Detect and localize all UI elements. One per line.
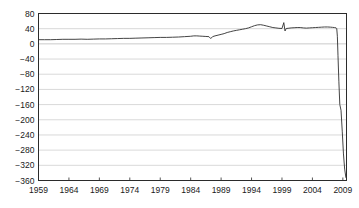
y-tick-label: −200 <box>15 115 34 125</box>
y-tick-label: 40 <box>25 24 35 34</box>
y-tick-label: −280 <box>15 145 34 155</box>
y-tick-label: 80 <box>25 9 35 19</box>
y-tick-label: −320 <box>15 160 34 170</box>
x-tick-label: 1984 <box>181 185 200 195</box>
x-tick-label: 1969 <box>90 185 109 195</box>
x-tick-label: 1994 <box>242 185 261 195</box>
x-tick-label: 1964 <box>59 185 78 195</box>
x-axis-tick-labels: 1959196419691974197919841989199419992004… <box>29 185 353 195</box>
x-tick-label: 2004 <box>303 185 322 195</box>
data-series-group <box>39 23 346 178</box>
x-tick-label: 1979 <box>151 185 170 195</box>
line-chart: 80400−40−80−120−160−200−240−280−320−360 … <box>0 0 359 208</box>
y-tick-label: −160 <box>15 100 34 110</box>
y-axis-tick-labels: 80400−40−80−120−160−200−240−280−320−360 <box>15 9 34 186</box>
chart-container: 80400−40−80−120−160−200−240−280−320−360 … <box>0 0 359 208</box>
x-tick-label: 2009 <box>333 185 352 195</box>
x-tick-label: 1989 <box>212 185 231 195</box>
x-tick-label: 1999 <box>273 185 292 195</box>
y-tick-label: −80 <box>20 69 35 79</box>
y-tick-label: 0 <box>30 39 35 49</box>
y-tick-label: −240 <box>15 130 34 140</box>
gridlines <box>39 29 346 166</box>
x-tick-label: 1959 <box>29 185 48 195</box>
plot-frame <box>39 14 347 181</box>
data-line <box>39 23 346 178</box>
y-tick-label: −40 <box>20 54 35 64</box>
y-tick-label: −120 <box>15 84 34 94</box>
x-tick-label: 1974 <box>120 185 139 195</box>
